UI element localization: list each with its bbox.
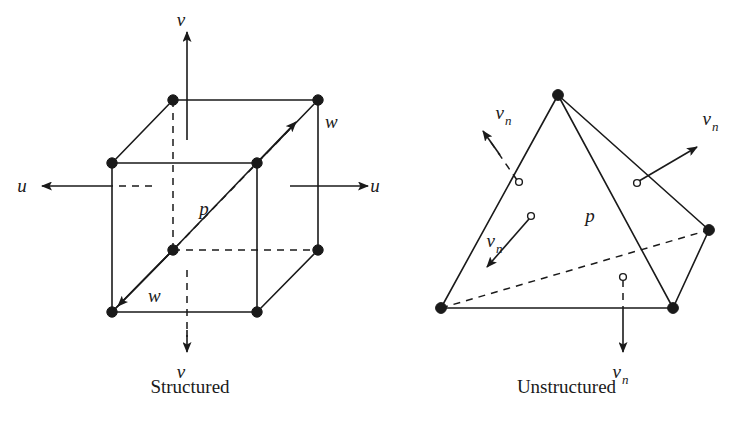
tet-visible-edges (441, 95, 709, 308)
cube-labels: v v u u w w p (17, 9, 380, 382)
tet-edge-apex-to-bottom-right (558, 95, 673, 308)
tet-normal-vectors (483, 131, 697, 352)
cube-edge-depth-top-left (112, 100, 173, 163)
cube-vertex-front-top-right (252, 158, 262, 168)
vector-normal-upper-right (639, 147, 697, 181)
cube-vertex-back-bottom-left (168, 245, 178, 255)
cube-vertex-front-top-left (107, 158, 117, 168)
tet-vertex-right (704, 225, 715, 236)
label-w-lower: w (148, 285, 161, 306)
label-u-left: u (17, 175, 27, 196)
label-v-top: v (177, 9, 186, 30)
tet-edge-apex-to-bottom-left (441, 95, 558, 308)
label-normal-upper-left: v n (496, 102, 512, 128)
caption-structured: Structured (0, 376, 380, 398)
cube-edge-depth-bottom-right (257, 250, 318, 312)
tet-vertex-bottom-right (668, 303, 679, 314)
caption-unstructured: Unstructured (380, 376, 753, 398)
label-p-structured: p (197, 198, 209, 219)
svg-text:v: v (703, 108, 712, 129)
label-normal-front: v n (487, 230, 503, 256)
svg-text:n: n (505, 113, 512, 128)
svg-text:v: v (496, 102, 505, 123)
cube-velocity-vectors (42, 32, 368, 352)
cube-vertex-back-top-right (313, 95, 323, 105)
label-u-right: u (370, 175, 380, 196)
cube-vertex-front-bottom-right (252, 307, 262, 317)
tet-face-center-upper-left (516, 179, 523, 186)
tet-face-center-bottom (620, 274, 627, 281)
vector-normal-upper-left (483, 131, 500, 155)
tet-face-center-upper-right (634, 180, 641, 187)
label-w-upper: w (325, 111, 338, 132)
diagram-canvas: v v u u w w p (0, 0, 753, 426)
label-p-unstructured: p (583, 205, 595, 226)
tet-vertex-apex (553, 90, 564, 101)
cube-vertex-front-bottom-left (107, 307, 117, 317)
svg-text:n: n (496, 241, 503, 256)
vector-w-lower-shadow (112, 253, 170, 312)
tet-edge-hidden-bottom-left-to-right (441, 230, 709, 308)
svg-text:n: n (712, 119, 719, 134)
tet-face-centers (516, 179, 641, 281)
svg-text:v: v (487, 230, 496, 251)
cube-vertex-back-bottom-right (313, 245, 323, 255)
tet-labels: v n v n v n v n p (487, 102, 719, 387)
unstructured-cell-group: v n v n v n v n p (436, 90, 719, 387)
cube-vertex-back-top-left (168, 95, 178, 105)
label-normal-upper-right: v n (703, 108, 719, 134)
figure-container: v v u u w w p (0, 0, 753, 426)
tet-edge-apex-to-right (558, 95, 709, 230)
tet-vertices (436, 90, 715, 314)
vector-w-upper (173, 122, 296, 250)
structured-cell-group: v v u u w w p (17, 9, 380, 382)
tet-vertex-bottom-left (436, 303, 447, 314)
tet-face-center-front (528, 213, 535, 220)
tet-edge-bottom-right-to-right (673, 230, 709, 308)
